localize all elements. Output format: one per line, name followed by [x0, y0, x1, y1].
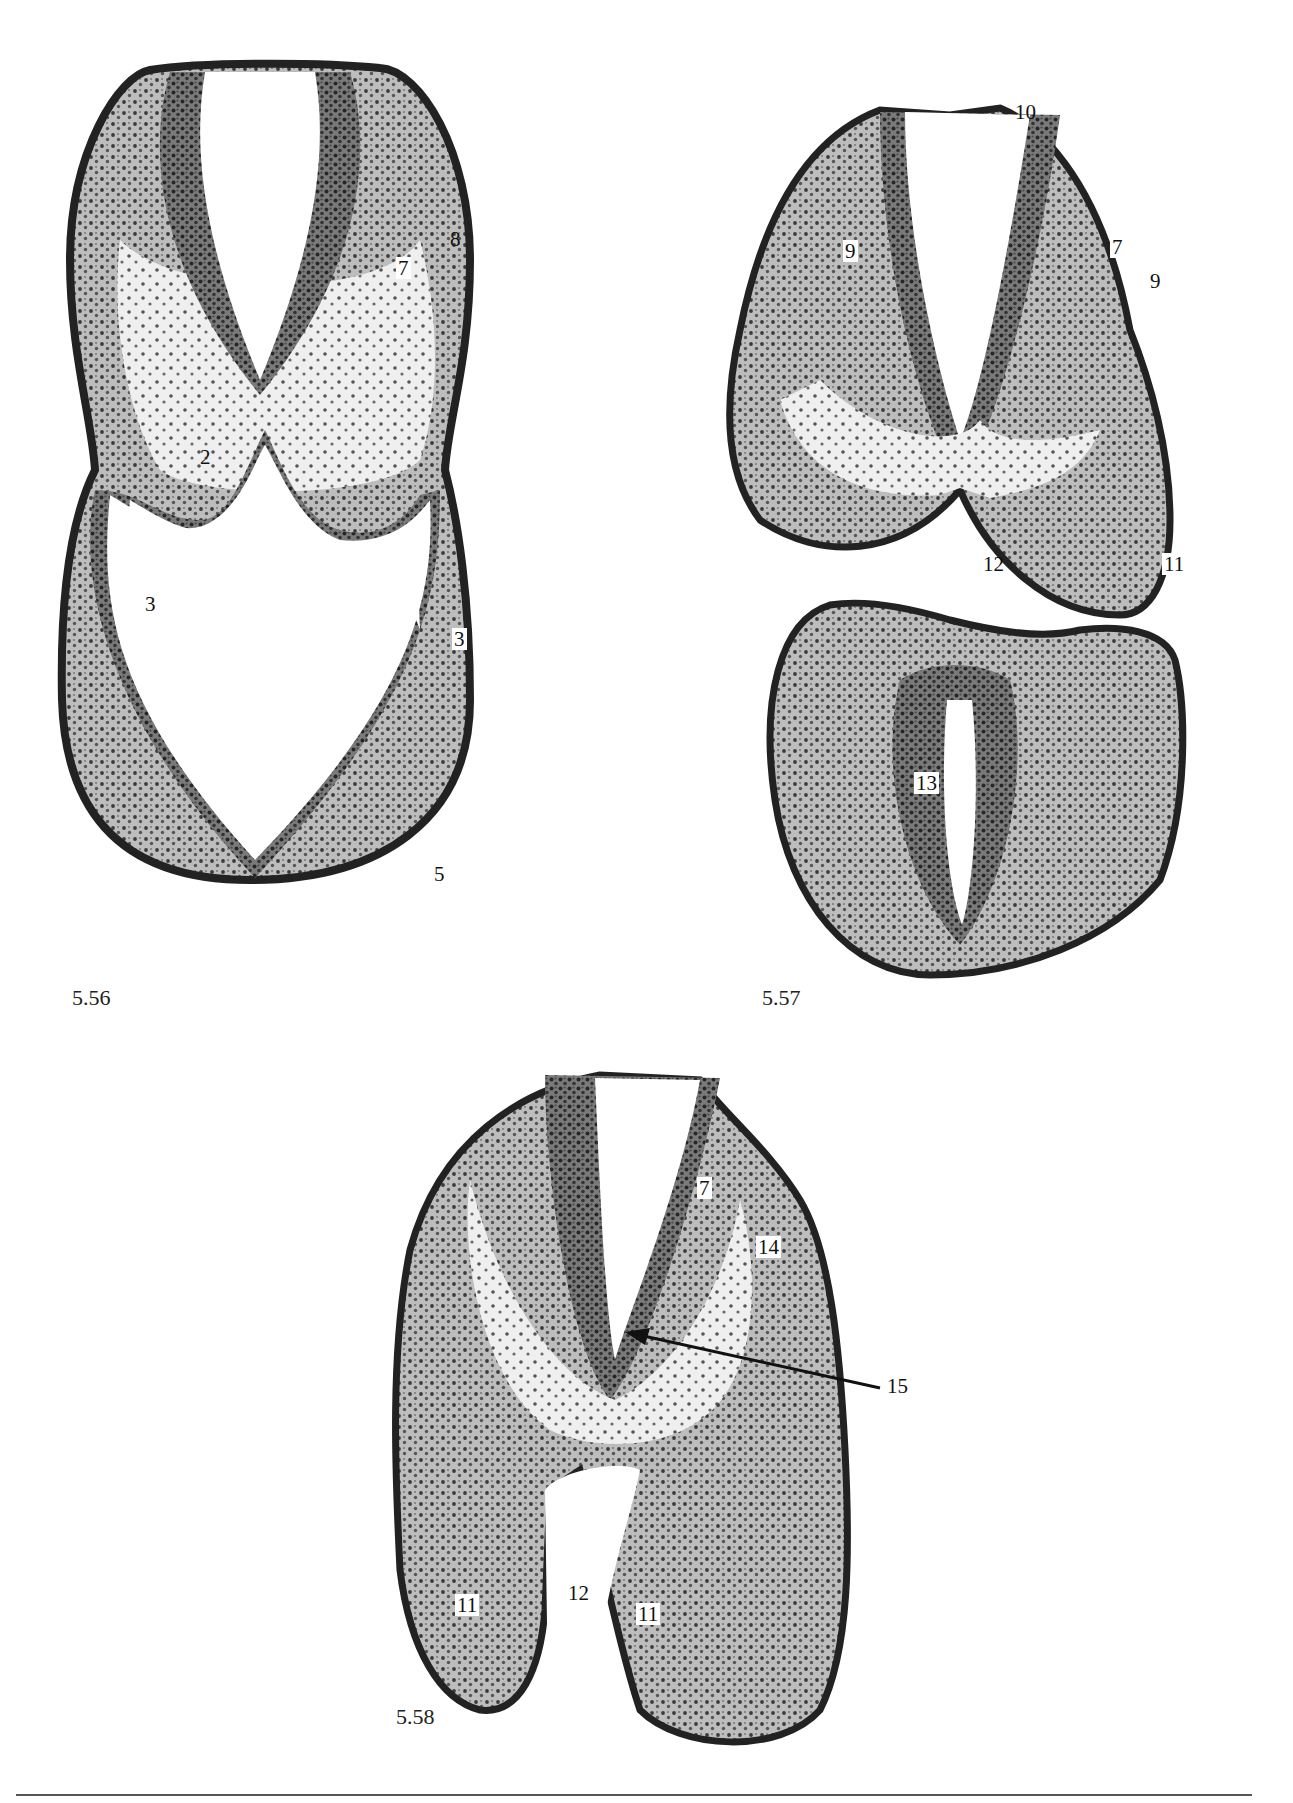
- page-bottom-rule: [16, 1794, 1252, 1796]
- figure-5-58: 7 14 15 12 11 11 5.58: [0, 1050, 1293, 1770]
- label-13: 13: [914, 772, 939, 794]
- label-7: 7: [697, 1177, 712, 1199]
- tissue-section-5-57-lower: [0, 0, 1293, 1010]
- figure-number: 5.58: [396, 1704, 435, 1730]
- tissue-section-5-58: [0, 1050, 1293, 1770]
- figure-5-57: 10 9 7 9 12 11 13 5.57: [0, 0, 1293, 1010]
- label-11: 11: [1162, 553, 1186, 575]
- figure-number: 5.57: [762, 985, 801, 1011]
- label-9-right: 9: [1148, 270, 1163, 292]
- label-10: 10: [1013, 101, 1038, 123]
- label-12: 12: [566, 1582, 591, 1604]
- label-9-left: 9: [843, 240, 858, 262]
- label-15: 15: [885, 1375, 910, 1397]
- label-11-right: 11: [636, 1603, 660, 1625]
- label-11-left: 11: [455, 1594, 479, 1616]
- label-12: 12: [981, 553, 1006, 575]
- label-7: 7: [1110, 236, 1125, 258]
- label-14: 14: [756, 1236, 781, 1258]
